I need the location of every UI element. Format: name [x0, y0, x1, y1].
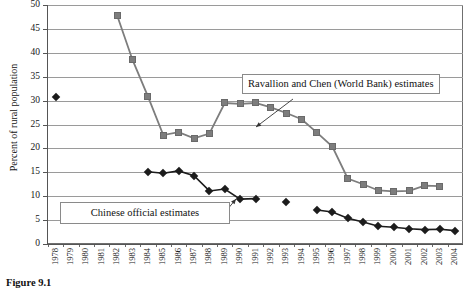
data-point — [283, 110, 290, 117]
data-point — [329, 143, 336, 150]
data-point — [160, 132, 167, 139]
data-point — [406, 187, 413, 194]
annotation-chinese-official-estimates: Chinese official estimates — [60, 202, 230, 224]
annotation-worldbank-estimates: Ravallion and Chen (World Bank) estimate… — [242, 74, 440, 94]
data-point — [390, 188, 397, 195]
data-point — [237, 100, 244, 107]
figure-container: 05101520253035404550 1978197919801981198… — [0, 0, 469, 297]
series-line — [317, 210, 455, 231]
data-point — [344, 175, 351, 182]
data-point — [144, 93, 151, 100]
data-point — [267, 104, 274, 111]
chart-canvas: 05101520253035404550 1978197919801981198… — [0, 0, 469, 268]
data-point — [313, 129, 320, 136]
data-point — [114, 12, 121, 19]
data-point — [421, 182, 428, 189]
data-point — [360, 181, 367, 188]
data-point — [175, 129, 182, 136]
figure-caption: Figure 9.1 — [6, 277, 51, 288]
data-point — [252, 99, 259, 106]
series-line-layer — [0, 0, 469, 268]
data-point — [221, 99, 228, 106]
annotation-arrow-head — [256, 122, 261, 127]
data-point — [436, 183, 443, 190]
data-point — [206, 130, 213, 137]
data-point — [191, 135, 198, 142]
data-point — [298, 116, 305, 123]
data-point — [375, 187, 382, 194]
series-line — [117, 16, 440, 192]
data-point — [129, 56, 136, 63]
